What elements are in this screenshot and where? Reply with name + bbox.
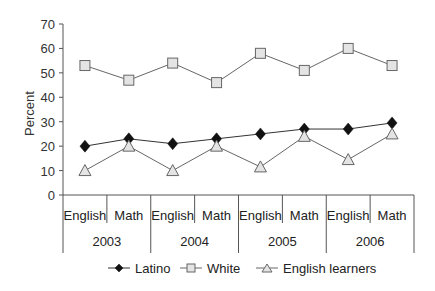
- triangle-marker: [342, 154, 354, 165]
- legend-label: Latino: [135, 261, 170, 276]
- square-marker: [124, 75, 134, 85]
- x-group-label: 2005: [268, 234, 297, 249]
- x-subcategory-label: English: [327, 208, 370, 223]
- x-subcategory-label: English: [239, 208, 282, 223]
- square-marker: [343, 43, 353, 53]
- legend-item: Latino: [108, 261, 170, 276]
- x-group-label: 2006: [356, 234, 385, 249]
- legend-item: White: [180, 261, 240, 276]
- triangle-marker: [386, 128, 398, 139]
- square-marker: [387, 61, 397, 71]
- x-subcategory-label: Math: [378, 208, 407, 223]
- triangle-marker: [167, 165, 179, 176]
- triangle-marker: [298, 130, 310, 141]
- x-subcategory-label: English: [64, 208, 107, 223]
- square-marker: [168, 58, 178, 68]
- y-axis-label: Percent: [22, 91, 37, 136]
- y-tick-label: 70: [41, 17, 55, 32]
- y-tick-label: 60: [41, 41, 55, 56]
- y-tick-label: 10: [41, 164, 55, 179]
- y-tick-label: 0: [48, 188, 55, 203]
- square-marker: [299, 65, 309, 75]
- square-marker: [187, 264, 195, 272]
- triangle-marker: [254, 161, 266, 172]
- diamond-marker: [168, 138, 178, 150]
- legend-item: English learners: [256, 261, 377, 276]
- legend: LatinoWhiteEnglish learners: [108, 261, 377, 276]
- y-tick-label: 20: [41, 139, 55, 154]
- x-subcategory-label: Math: [202, 208, 231, 223]
- x-subcategory-label: Math: [290, 208, 319, 223]
- y-tick-label: 50: [41, 66, 55, 81]
- diamond-marker: [115, 264, 123, 272]
- x-subcategory-label: English: [151, 208, 194, 223]
- diamond-marker: [343, 123, 353, 135]
- x-subcategory-label: Math: [114, 208, 143, 223]
- legend-label: White: [207, 261, 240, 276]
- x-group-label: 2004: [180, 234, 209, 249]
- triangle-marker: [123, 140, 135, 151]
- diamond-marker: [255, 128, 265, 140]
- square-marker: [80, 61, 90, 71]
- x-group-label: 2003: [92, 234, 121, 249]
- legend-label: English learners: [283, 261, 377, 276]
- series-white: [80, 43, 397, 87]
- y-tick-label: 40: [41, 90, 55, 105]
- triangle-marker: [79, 165, 91, 176]
- triangle-marker: [211, 140, 223, 151]
- line-chart: Percent010203040506070EnglishMath2003Eng…: [0, 0, 435, 291]
- square-marker: [255, 48, 265, 58]
- y-tick-label: 30: [41, 115, 55, 130]
- diamond-marker: [80, 140, 90, 152]
- square-marker: [212, 78, 222, 88]
